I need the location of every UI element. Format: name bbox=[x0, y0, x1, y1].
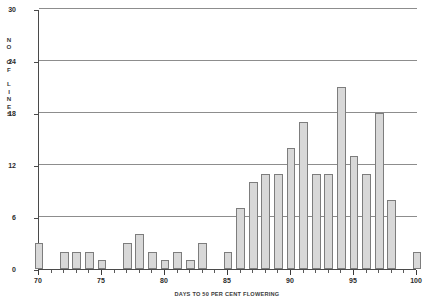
bar-series bbox=[39, 9, 417, 269]
y-axis-tick-label: 24 bbox=[0, 58, 16, 65]
bar bbox=[387, 200, 396, 269]
x-axis-minor-tick bbox=[240, 270, 241, 273]
y-axis-tick-label: 18 bbox=[0, 110, 16, 117]
bar bbox=[60, 252, 69, 269]
x-axis-minor-tick bbox=[403, 270, 404, 273]
y-title-letter: N bbox=[7, 36, 11, 43]
x-axis-minor-tick bbox=[214, 270, 215, 273]
x-axis-tick-labels: 707580859095100 bbox=[38, 277, 416, 287]
x-axis-minor-tick bbox=[366, 270, 367, 273]
x-axis-minor-tick bbox=[114, 270, 115, 273]
y-axis-tick-mark bbox=[34, 114, 38, 115]
bar bbox=[161, 260, 170, 269]
bar bbox=[135, 234, 144, 269]
bar bbox=[72, 252, 81, 269]
bar bbox=[123, 243, 132, 269]
x-axis-minor-tick bbox=[328, 270, 329, 273]
x-axis-tick-label: 75 bbox=[86, 277, 116, 284]
plot-area bbox=[38, 10, 416, 270]
x-axis-ticks bbox=[38, 270, 416, 276]
y-axis-tick-label: 6 bbox=[0, 214, 16, 221]
x-axis-tick-label: 70 bbox=[23, 277, 53, 284]
y-title-letter: E bbox=[7, 103, 11, 110]
bar bbox=[324, 174, 333, 269]
bar bbox=[35, 243, 44, 269]
bar bbox=[173, 252, 182, 269]
x-axis-minor-tick bbox=[315, 270, 316, 273]
bar bbox=[299, 122, 308, 269]
bar bbox=[261, 174, 270, 269]
bar bbox=[413, 252, 422, 269]
bar bbox=[274, 174, 283, 269]
bar bbox=[312, 174, 321, 269]
bar bbox=[98, 260, 107, 269]
x-axis-major-tick bbox=[38, 270, 39, 275]
y-axis-tick-label: 12 bbox=[0, 162, 16, 169]
y-axis-title: NOOFLINES bbox=[2, 36, 16, 117]
y-axis-tick-label: 0 bbox=[0, 266, 16, 273]
x-axis-tick-label: 100 bbox=[401, 277, 431, 284]
bar bbox=[375, 113, 384, 269]
bar bbox=[337, 87, 346, 269]
bar bbox=[224, 252, 233, 269]
bar bbox=[148, 252, 157, 269]
x-axis-tick-label: 80 bbox=[149, 277, 179, 284]
x-axis-minor-tick bbox=[63, 270, 64, 273]
bar bbox=[350, 156, 359, 269]
bar bbox=[249, 182, 258, 269]
x-axis-minor-tick bbox=[202, 270, 203, 273]
x-axis-title: DAYS TO 50 PER CENT FLOWERING bbox=[38, 291, 416, 297]
x-axis-minor-tick bbox=[139, 270, 140, 273]
x-axis-minor-tick bbox=[88, 270, 89, 273]
bar bbox=[362, 174, 371, 269]
x-axis-tick-label: 95 bbox=[338, 277, 368, 284]
y-axis-tick-mark bbox=[34, 62, 38, 63]
x-axis-tick-label: 85 bbox=[212, 277, 242, 284]
bar bbox=[85, 252, 94, 269]
x-axis-major-tick bbox=[290, 270, 291, 275]
x-axis-minor-tick bbox=[252, 270, 253, 273]
bar bbox=[186, 260, 195, 269]
bar bbox=[287, 148, 296, 269]
y-title-letter: L bbox=[7, 80, 11, 87]
y-title-letter: I bbox=[8, 88, 10, 95]
bar bbox=[236, 208, 245, 269]
bar bbox=[198, 243, 207, 269]
y-axis-tick-mark bbox=[34, 10, 38, 11]
x-axis-minor-tick bbox=[76, 270, 77, 273]
x-axis-minor-tick bbox=[378, 270, 379, 273]
y-title-letter: N bbox=[7, 95, 11, 102]
x-axis-minor-tick bbox=[277, 270, 278, 273]
x-axis-minor-tick bbox=[391, 270, 392, 273]
y-axis-tick-mark bbox=[34, 166, 38, 167]
y-title-letter: F bbox=[7, 66, 11, 73]
x-axis-minor-tick bbox=[340, 270, 341, 273]
x-axis-minor-tick bbox=[51, 270, 52, 273]
y-title-letter: O bbox=[7, 43, 12, 50]
x-axis-minor-tick bbox=[189, 270, 190, 273]
y-axis-tick-label: 30 bbox=[0, 6, 16, 13]
x-axis-minor-tick bbox=[151, 270, 152, 273]
x-axis-minor-tick bbox=[177, 270, 178, 273]
x-axis-major-tick bbox=[101, 270, 102, 275]
x-axis-major-tick bbox=[353, 270, 354, 275]
x-axis-minor-tick bbox=[126, 270, 127, 273]
x-axis-major-tick bbox=[416, 270, 417, 275]
x-axis-tick-label: 90 bbox=[275, 277, 305, 284]
x-axis-major-tick bbox=[164, 270, 165, 275]
x-axis-minor-tick bbox=[303, 270, 304, 273]
x-axis-major-tick bbox=[227, 270, 228, 275]
histogram-chart: NOOFLINES 0612182430 707580859095100 DAY… bbox=[0, 0, 434, 306]
x-axis-minor-tick bbox=[265, 270, 266, 273]
y-axis-tick-mark bbox=[34, 218, 38, 219]
